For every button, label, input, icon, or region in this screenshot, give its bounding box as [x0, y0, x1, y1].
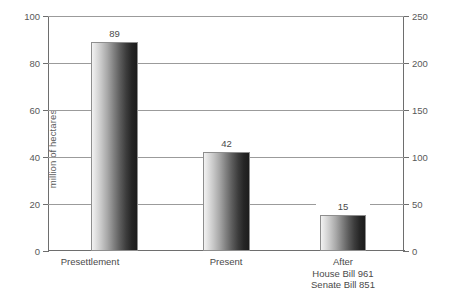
y-tick-label-left-60: 60 [29, 106, 40, 116]
tick-right-50 [404, 204, 409, 205]
x-axis-label-after-bills-line2: House Bill 961 [291, 268, 395, 280]
y-tick-label-left-100: 100 [24, 12, 40, 22]
gridline-100 [48, 16, 404, 17]
x-axis-label-present: Present [180, 256, 272, 268]
y-tick-label-right-100: 100 [412, 153, 428, 163]
y-axis-right-line [403, 16, 404, 252]
bar-presettlement[interactable] [91, 42, 138, 251]
tick-right-0 [404, 251, 409, 252]
tick-right-150 [404, 110, 409, 111]
y-tick-label-right-200: 200 [412, 59, 428, 69]
y-tick-label-left-40: 40 [29, 153, 40, 163]
tick-right-250 [404, 16, 409, 17]
y-tick-label-right-50: 50 [412, 200, 423, 210]
tick-right-100 [404, 157, 409, 158]
bar-value-after-bills: 15 [316, 202, 370, 212]
bar-after-bills[interactable] [320, 215, 366, 251]
tick-left-80 [43, 63, 48, 64]
figure: million of hectares millions of acres 10… [0, 0, 453, 297]
y-tick-label-right-150: 150 [412, 106, 428, 116]
y-tick-label-right-0: 0 [412, 247, 417, 257]
tick-right-200 [404, 63, 409, 64]
x-axis-label-present-line1: Present [180, 256, 272, 268]
figure-caption [0, 289, 453, 297]
y-axis-left-line [48, 16, 49, 252]
x-axis-label-presettlement: Presettlement [44, 256, 136, 268]
tick-left-60 [43, 110, 48, 111]
tick-left-100 [43, 16, 48, 17]
bar-present[interactable] [203, 152, 250, 251]
bar-value-present: 42 [203, 139, 250, 149]
x-axis-label-after-bills-line1: After [291, 256, 395, 268]
tick-left-40 [43, 157, 48, 158]
y-tick-label-left-80: 80 [29, 59, 40, 69]
y-tick-label-left-20: 20 [29, 200, 40, 210]
y-tick-label-left-0: 0 [35, 247, 40, 257]
bar-value-presettlement: 89 [91, 29, 138, 39]
plot-area: 100 250 80 200 60 150 40 100 20 50 0 0 [48, 16, 404, 251]
tick-left-20 [43, 204, 48, 205]
x-axis-label-presettlement-line1: Presettlement [44, 256, 136, 268]
y-tick-label-right-250: 250 [412, 12, 428, 22]
x-axis-label-after-bills: After House Bill 961 Senate Bill 851 [291, 256, 395, 291]
tick-left-0 [43, 251, 48, 252]
